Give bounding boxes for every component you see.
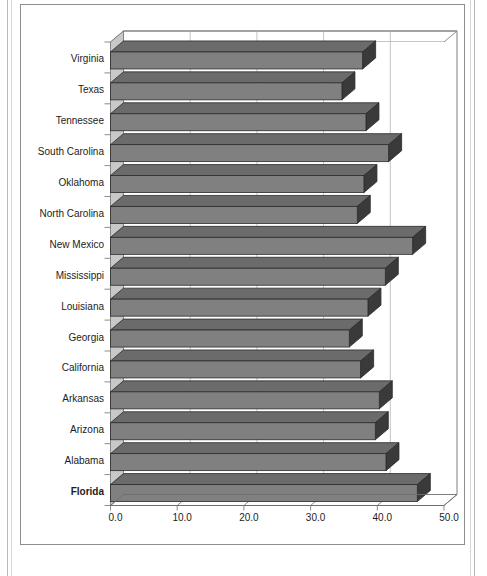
bar-top-face <box>111 72 355 83</box>
bar-top-face <box>111 474 431 485</box>
bar-front-face <box>111 237 413 254</box>
bar-front-face <box>111 392 380 409</box>
bar-florida <box>111 474 431 502</box>
bar-top-face <box>111 443 399 454</box>
bar-top-face <box>111 257 399 268</box>
bar-front-face <box>111 485 418 502</box>
value-tick-label: 40.0 <box>373 512 392 523</box>
bar-front-face <box>111 330 350 347</box>
bar-top-face <box>111 103 379 114</box>
category-axis-labels: VirginiaTexasTennesseeSouth CarolinaOkla… <box>22 38 104 508</box>
bar-front-face <box>111 361 361 378</box>
bar-top-face <box>111 319 363 330</box>
bar-tennessee <box>111 103 379 131</box>
category-label-california: California <box>22 362 104 373</box>
value-tick-label: 50.0 <box>439 512 458 523</box>
value-tick-label: 0.0 <box>109 512 123 523</box>
bar-louisiana <box>111 288 381 316</box>
category-label-louisiana: Louisiana <box>22 301 104 312</box>
bar-front-face <box>111 114 366 131</box>
bar-front-face <box>111 206 358 223</box>
bar-top-face <box>111 226 426 237</box>
bar-oklahoma <box>111 165 377 193</box>
category-label-virginia: Virginia <box>22 53 104 64</box>
bar-front-face <box>111 299 368 316</box>
bar-top-face <box>111 41 376 52</box>
category-label-arkansas: Arkansas <box>22 393 104 404</box>
bar-front-face <box>111 83 342 100</box>
category-label-arizona: Arizona <box>22 424 104 435</box>
bar-top-face <box>111 350 374 361</box>
bar-top-face <box>111 165 377 176</box>
bar-north-carolina <box>111 195 371 223</box>
bar-california <box>111 350 374 378</box>
value-tick-label: 20.0 <box>239 512 258 523</box>
bar-front-face <box>111 268 386 285</box>
plot-back-wall-top <box>111 31 458 42</box>
value-tick-label: 30.0 <box>306 512 325 523</box>
category-label-texas: Texas <box>22 84 104 95</box>
bar-top-face <box>111 134 402 145</box>
category-label-florida: Florida <box>22 486 104 497</box>
category-label-mississippi: Mississippi <box>22 270 104 281</box>
bar-virginia <box>111 41 376 69</box>
value-axis-labels: 0.010.020.030.040.050.0 <box>0 512 487 528</box>
bar-mississippi <box>111 257 399 285</box>
category-label-south-carolina: South Carolina <box>22 146 104 157</box>
category-label-north-carolina: North Carolina <box>22 208 104 219</box>
bar-arkansas <box>111 381 393 409</box>
bar-top-face <box>111 412 389 423</box>
bar-front-face <box>111 176 364 193</box>
category-label-oklahoma: Oklahoma <box>22 177 104 188</box>
chart-page: VirginiaTexasTennesseeSouth CarolinaOkla… <box>0 0 487 576</box>
bar-georgia <box>111 319 363 347</box>
bar-top-face <box>111 381 393 392</box>
bar-new-mexico <box>111 226 426 254</box>
bar-arizona <box>111 412 389 440</box>
category-label-tennessee: Tennessee <box>22 115 104 126</box>
bar-texas <box>111 72 355 100</box>
bar-alabama <box>111 443 399 471</box>
bar-top-face <box>111 288 381 299</box>
bar-front-face <box>111 423 376 440</box>
bar-front-face <box>111 52 363 69</box>
bar-top-face <box>111 195 371 206</box>
value-tick-label: 10.0 <box>172 512 191 523</box>
bar-front-face <box>111 145 389 162</box>
category-label-georgia: Georgia <box>22 332 104 343</box>
bar-south-carolina <box>111 134 402 162</box>
category-label-new-mexico: New Mexico <box>22 239 104 250</box>
bar-front-face <box>111 454 386 471</box>
category-label-alabama: Alabama <box>22 455 104 466</box>
